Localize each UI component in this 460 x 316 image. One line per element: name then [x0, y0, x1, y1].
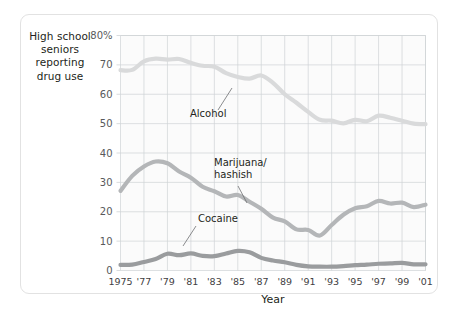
y-axis-tick-label: 20	[100, 206, 113, 217]
series-annotation-label: Cocaine	[198, 213, 238, 224]
x-axis-tick-label: '89	[277, 276, 292, 287]
x-axis-tick-label: '77	[137, 276, 152, 287]
y-axis-tick-label: 30	[100, 177, 113, 188]
y-axis-tick-label: 50	[100, 118, 113, 129]
x-axis-tick-label: '81	[184, 276, 199, 287]
y-axis-tick-label: 40	[100, 148, 113, 159]
x-axis-tick-label: '85	[230, 276, 245, 287]
y-axis-tick-label: 60	[100, 89, 113, 100]
x-axis-tick-label: '01	[418, 276, 433, 287]
series-annotation-label: Alcohol	[190, 108, 226, 119]
x-axis-tick-label: '79	[160, 276, 175, 287]
x-axis-tick-label: '93	[324, 276, 339, 287]
series-annotation-label: Marijuana/	[214, 157, 267, 168]
x-axis-tick-label: 1975	[108, 276, 132, 287]
x-axis-tick-labels: 1975'77'79'81'83'85'87'89'91'93'95'97'99…	[108, 276, 432, 287]
y-axis-tick-label: 0	[106, 265, 112, 276]
x-axis-tick-label: '87	[254, 276, 269, 287]
x-axis-tick-label: '99	[395, 276, 410, 287]
y-axis-tick-label: 10	[100, 236, 113, 247]
y-axis-tick-label: 70	[100, 59, 113, 70]
series-annotation-label: hashish	[214, 169, 252, 180]
x-axis-tick-label: '97	[371, 276, 386, 287]
x-axis-tick-label: '91	[301, 276, 316, 287]
x-axis-title: Year	[260, 293, 285, 306]
x-axis-tick-label: '95	[348, 276, 363, 287]
y-axis-tick-label: 80%	[90, 30, 112, 41]
y-axis-tick-labels: 01020304050607080%	[90, 30, 120, 276]
figure-container: High school seniors reporting drug use 0…	[0, 0, 460, 316]
x-axis-tick-label: '83	[207, 276, 222, 287]
line-chart-plot: 01020304050607080% 1975'77'79'81'83'85'8…	[0, 0, 460, 316]
